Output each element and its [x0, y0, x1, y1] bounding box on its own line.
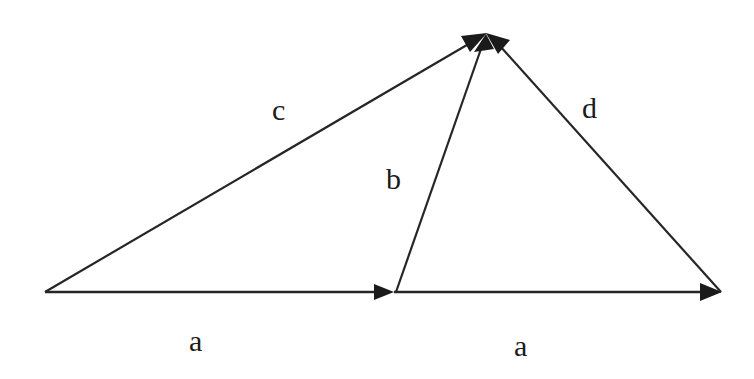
vector-b-shaft — [396, 46, 482, 292]
label-b: b — [386, 164, 401, 194]
label-d: d — [582, 93, 597, 123]
label-a-right: a — [514, 331, 527, 361]
vector-a-left-arrowhead — [374, 284, 394, 300]
vector-a-left — [45, 284, 394, 300]
vector-a-right — [394, 283, 722, 301]
label-c: c — [272, 95, 285, 125]
vector-c — [45, 33, 487, 292]
vector-a-right-arrowhead — [700, 283, 722, 301]
vector-b — [396, 34, 494, 292]
diagram-canvas: a a b c d — [0, 0, 754, 379]
vector-d — [486, 33, 721, 292]
label-a-left: a — [189, 326, 202, 356]
vector-diagram — [0, 0, 754, 379]
vector-d-shaft — [500, 46, 721, 292]
